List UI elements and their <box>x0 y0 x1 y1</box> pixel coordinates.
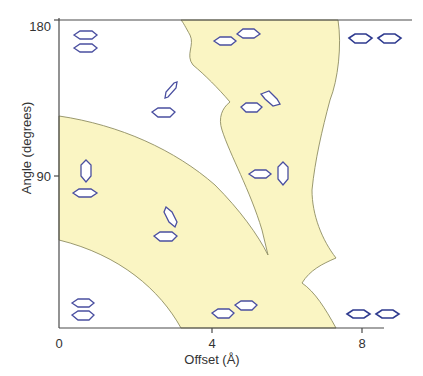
hexagon-icon <box>165 82 177 98</box>
y-axis-label: Angle (degrees) <box>19 102 34 195</box>
dimer-stacked-bottom-left <box>72 299 94 320</box>
dimer-tilted-upper-left <box>152 82 177 117</box>
hexagon-icon <box>249 170 271 178</box>
hexagon-icon <box>378 34 401 43</box>
hexagon-icon <box>72 311 94 320</box>
hexagon-icon <box>349 34 372 43</box>
dimer-side-by-side-top <box>349 34 401 43</box>
hexagon-icon <box>347 310 370 318</box>
y-tick-label-180: 180 <box>29 19 51 34</box>
y-tick-label-90: 90 <box>37 169 51 184</box>
x-tick-label-8: 8 <box>358 336 365 351</box>
hexagon-icon <box>74 44 97 52</box>
hexagon-icon <box>214 37 236 45</box>
dimer-side-by-side-bottom <box>347 310 399 318</box>
shaded-region-main <box>59 20 340 328</box>
x-tick-label-4: 4 <box>208 336 215 351</box>
hexagon-icon <box>72 299 94 307</box>
hexagon-icon <box>154 232 177 241</box>
dimer-stacked-top-left <box>74 31 97 52</box>
x-tick-label-0: 0 <box>55 336 62 351</box>
x-axis-label: Offset (Å) <box>184 352 239 367</box>
chart-svg: 180 90 0 4 8 Offset (Å) Angle (degrees) <box>0 0 423 376</box>
hexagon-icon <box>278 162 288 185</box>
hexagon-icon <box>376 310 399 318</box>
hexagon-icon <box>152 108 175 117</box>
hexagon-icon <box>237 29 260 38</box>
shaded-regions <box>59 20 340 328</box>
hexagon-icon <box>73 189 97 197</box>
hexagon-icon <box>74 31 97 39</box>
hexagon-icon <box>241 103 262 112</box>
hexagon-icon <box>81 160 91 182</box>
